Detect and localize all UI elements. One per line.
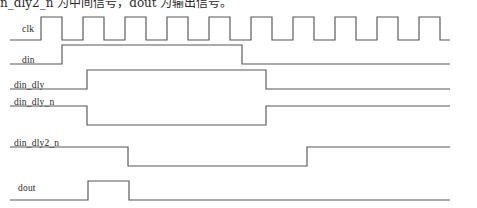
- waveform-din-dly2-n: [10, 147, 450, 166]
- waveform-din-dly-n: [10, 106, 450, 125]
- document-figure: n_dly2_n 为中间信号，dout 为输出信号。 clk din din_d…: [0, 0, 477, 208]
- waveform-clk: [10, 17, 450, 40]
- waveform-canvas: [0, 0, 477, 208]
- waveform-din-dly: [10, 70, 450, 89]
- waveform-din: [10, 45, 450, 64]
- waveform-dout: [10, 181, 450, 200]
- timing-diagram: clk din din_dly din_dly_n din_dly2_n dou…: [0, 0, 477, 208]
